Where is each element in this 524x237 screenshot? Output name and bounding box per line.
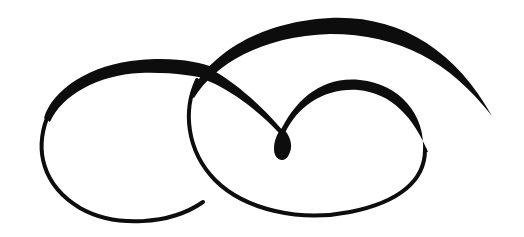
- diagonal-to-knot: [200, 66, 284, 134]
- left-loop-lower-stroke: [42, 118, 203, 221]
- swirl-flourish-icon: [0, 0, 524, 237]
- top-arc-swell: [190, 18, 492, 116]
- flourish-canvas: [0, 0, 524, 237]
- right-loop-upper-swell: [280, 80, 428, 152]
- teardrop-knot: [274, 128, 291, 160]
